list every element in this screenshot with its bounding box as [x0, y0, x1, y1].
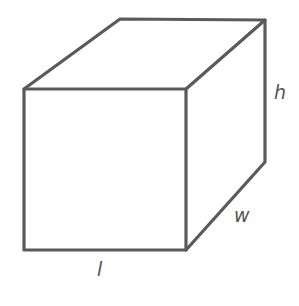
- width-label: w: [234, 204, 250, 226]
- prism-diagram: h w l: [0, 0, 299, 306]
- top-face-outline: [24, 19, 265, 89]
- top-face: [24, 19, 265, 89]
- height-label: h: [274, 81, 286, 103]
- length-label: l: [97, 258, 103, 280]
- front-face-outline: [24, 89, 186, 250]
- front-face: [24, 89, 186, 250]
